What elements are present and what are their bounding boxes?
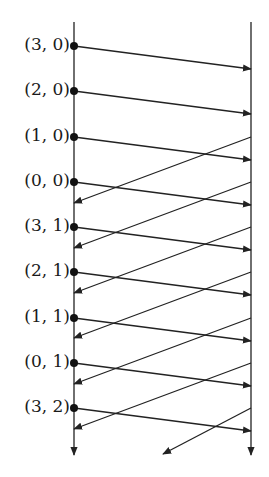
event-dot bbox=[70, 359, 78, 367]
event-label: (2, 1) bbox=[24, 262, 70, 279]
event-label: (3, 2) bbox=[24, 398, 70, 415]
event-label: (1, 0) bbox=[24, 127, 70, 144]
event-dot bbox=[70, 404, 78, 412]
forward-message bbox=[74, 137, 251, 160]
forward-message bbox=[74, 91, 251, 114]
event-dot bbox=[70, 314, 78, 322]
event-dot bbox=[70, 178, 78, 186]
event-label: (0, 0) bbox=[24, 172, 70, 189]
event-label: (0, 1) bbox=[24, 353, 70, 370]
event-dot bbox=[70, 268, 78, 276]
event-dot bbox=[70, 87, 78, 95]
messages bbox=[74, 46, 251, 454]
forward-message bbox=[74, 46, 251, 69]
event-dot bbox=[70, 42, 78, 50]
event-label: (3, 0) bbox=[24, 36, 70, 53]
return-message bbox=[163, 408, 251, 454]
forward-message bbox=[74, 318, 251, 341]
event-dot bbox=[70, 133, 78, 141]
event-dot bbox=[70, 223, 78, 231]
event-label: (2, 0) bbox=[24, 81, 70, 98]
event-label: (3, 1) bbox=[24, 217, 70, 234]
event-label: (1, 1) bbox=[24, 308, 70, 325]
